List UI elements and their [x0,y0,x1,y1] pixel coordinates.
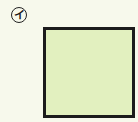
green-square [43,27,135,118]
circled-label: イ [11,7,27,23]
label-text: イ [14,10,25,21]
figure-canvas: イ [0,0,138,122]
